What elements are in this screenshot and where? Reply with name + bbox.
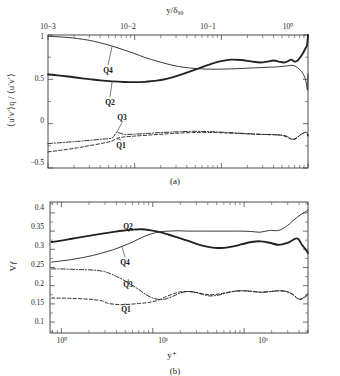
xtick-label: 10−2 xyxy=(120,22,136,31)
panel-b-yaxis-title: Vƒ xyxy=(8,261,18,272)
figure-container: y/δ₉₉ 10−3 10−2 10−1 10⁰ 1 0.5 0 −0.5 ⟨u… xyxy=(0,0,340,376)
xtick-label: 10² xyxy=(258,336,269,345)
panel-a-leader-lines xyxy=(108,46,122,140)
series-label-q1: Q1 xyxy=(116,141,126,150)
ytick-label: 0.3 xyxy=(35,241,45,250)
panel-a-xtick-labels: 10−3 10−2 10−1 10⁰ xyxy=(40,22,293,31)
ytick-label: 0.2 xyxy=(35,279,45,288)
xtick-label: 10−3 xyxy=(40,22,56,31)
panel-b: 0.4 0.35 0.3 0.25 0.2 0.15 0.1 Vƒ 10⁰ 10… xyxy=(0,188,340,376)
panel-b-plot: 0.4 0.35 0.3 0.25 0.2 0.15 0.1 Vƒ 10⁰ 10… xyxy=(0,188,340,376)
panel-b-series-labels: Q2Q4Q3Q1 xyxy=(120,222,133,314)
xtick-label: 10¹ xyxy=(158,336,168,345)
panel-a-curves xyxy=(48,35,308,152)
ytick-label: 0 xyxy=(40,116,44,125)
panel-b-xaxis-title: y⁺ xyxy=(167,350,177,360)
panel-b-leader-lines xyxy=(122,230,133,305)
panel-b-caption: (b) xyxy=(170,366,181,376)
ytick-label: 0.35 xyxy=(31,222,44,231)
series-label-q2: Q2 xyxy=(123,222,133,231)
panel-a-axes xyxy=(48,35,308,168)
panel-a-xaxis-title: y/δ₉₉ xyxy=(166,5,184,15)
ytick-label: 0.5 xyxy=(35,74,45,83)
series-curve-q1 xyxy=(48,132,308,152)
series-label-q2: Q2 xyxy=(105,98,115,107)
series-label-q4: Q4 xyxy=(103,66,113,75)
series-curve-q4 xyxy=(48,36,308,90)
panel-a-plot: y/δ₉₉ 10−3 10−2 10−1 10⁰ 1 0.5 0 −0.5 ⟨u… xyxy=(0,0,340,188)
series-curve-q2 xyxy=(52,229,308,253)
panel-b-curves xyxy=(52,210,308,305)
panel-b-axes xyxy=(50,202,308,333)
xtick-label: 10⁰ xyxy=(283,22,294,31)
series-curve-q3 xyxy=(52,269,308,300)
series-curve-q2 xyxy=(48,35,308,82)
series-label-q3: Q3 xyxy=(117,113,127,122)
ytick-label: 0.15 xyxy=(31,298,44,307)
xtick-label: 10−1 xyxy=(200,22,216,31)
ytick-label: 0.25 xyxy=(31,260,44,269)
xtick-label: 10⁰ xyxy=(57,336,68,345)
ytick-label: 1 xyxy=(40,32,44,41)
ytick-label: 0.1 xyxy=(35,317,45,326)
ytick-label: −0.5 xyxy=(30,158,44,167)
panel-a-ytick-labels: 1 0.5 0 −0.5 xyxy=(30,32,44,167)
panel-a-yaxis-title: ⟨u′v′⟩q / ⟨u′v′⟩ xyxy=(6,73,16,126)
series-label-q4: Q4 xyxy=(120,258,130,267)
panel-a-caption: (a) xyxy=(170,176,180,186)
series-curve-q1 xyxy=(52,291,308,305)
panel-b-xtick-labels: 10⁰ 10¹ 10² xyxy=(57,336,269,345)
ytick-label: 0.4 xyxy=(35,203,45,212)
series-label-q3: Q3 xyxy=(123,280,133,289)
panel-b-ytick-labels: 0.4 0.35 0.3 0.25 0.2 0.15 0.1 xyxy=(31,203,44,326)
series-label-q1: Q1 xyxy=(121,305,131,314)
panel-a: y/δ₉₉ 10−3 10−2 10−1 10⁰ 1 0.5 0 −0.5 ⟨u… xyxy=(0,0,340,188)
